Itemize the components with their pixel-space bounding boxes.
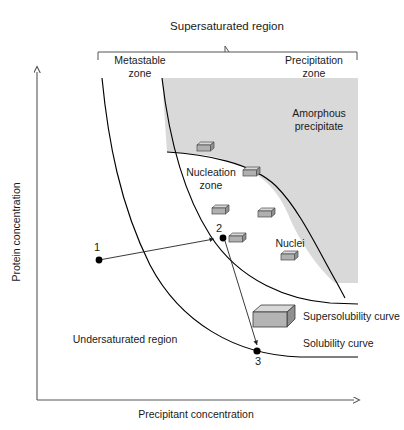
precipitation-zone-label-line2: zone: [303, 67, 326, 79]
y-axis-label: Protein concentration: [10, 182, 22, 281]
point-3-label: 3: [255, 355, 261, 367]
path-2-to-3: [225, 241, 257, 345]
point-2-marker: [220, 235, 227, 242]
point-2-label: 2: [216, 222, 222, 234]
crystal-icon: [197, 142, 214, 151]
crystal-icon: [243, 167, 260, 176]
metastable-zone-label-line2: zone: [129, 67, 152, 79]
supersaturated-region-label: Supersaturated region: [170, 20, 284, 32]
large-crystal-icon: [253, 305, 295, 327]
crystal-icon: [281, 251, 298, 260]
undersaturated-region-label: Undersaturated region: [73, 333, 178, 345]
supersolubility-curve-label: Supersolubility curve: [303, 310, 400, 322]
nucleation-zone-label-line2: zone: [200, 179, 223, 191]
point-3-marker: [253, 347, 260, 354]
amorphous-precipitate-label-line1: Amorphous: [292, 107, 346, 119]
phase-diagram: Supersaturated region Metastable zone Pr…: [0, 0, 404, 430]
crystal-icon: [212, 205, 229, 214]
nuclei-label: Nuclei: [275, 237, 304, 249]
solubility-curve-label: Solubility curve: [303, 337, 374, 349]
precipitation-zone-label-line1: Precipitation: [285, 54, 343, 66]
path-1-to-2: [99, 239, 214, 260]
crystal-icon: [258, 208, 275, 217]
nucleation-zone-label-line1: Nucleation: [186, 166, 236, 178]
metastable-zone-label-line1: Metastable: [114, 54, 166, 66]
amorphous-precipitate-label-line2: precipitate: [295, 120, 344, 132]
phase-diagram-svg: Supersaturated region Metastable zone Pr…: [0, 0, 404, 430]
point-1-label: 1: [94, 241, 100, 253]
crystal-icon: [229, 233, 246, 242]
point-1-marker: [96, 257, 103, 264]
x-axis-label: Precipitant concentration: [138, 408, 254, 420]
